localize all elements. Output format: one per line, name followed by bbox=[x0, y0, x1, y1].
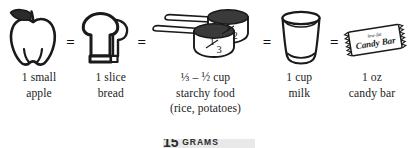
grams-banner-text: 15 grams bbox=[163, 139, 255, 148]
caption-candy-line-1: 1 oz bbox=[333, 70, 411, 86]
caption-bread: 1 slice bread bbox=[79, 70, 143, 101]
equals-sign-3: = bbox=[263, 35, 272, 68]
apple-icon bbox=[2, 2, 64, 68]
equivalence-item-apple bbox=[2, 2, 64, 68]
caption-milk: 1 cup milk bbox=[268, 70, 330, 101]
caption-milk-line-2: milk bbox=[268, 86, 330, 102]
caption-bread-line-1: 1 slice bbox=[79, 70, 143, 86]
caption-bread-line-2: bread bbox=[79, 86, 143, 102]
carbohydrate-equivalents-figure: = = bbox=[0, 0, 413, 148]
svg-text:2: 2 bbox=[232, 30, 237, 41]
grams-banner-unit: grams bbox=[182, 139, 219, 147]
equivalence-item-milk bbox=[274, 2, 328, 68]
equivalence-item-candy-bar: low-fat Candy Bar bbox=[341, 2, 411, 68]
equivalence-row: = = bbox=[0, 2, 413, 68]
caption-starchy-line-2: starchy food bbox=[146, 86, 266, 102]
caption-candy-bar: 1 oz candy bar bbox=[333, 70, 411, 101]
caption-apple: 1 small apple bbox=[2, 70, 76, 101]
equals-sign-2: = bbox=[138, 35, 147, 68]
milk-glass-icon bbox=[274, 2, 328, 68]
grams-banner: 15 grams bbox=[163, 139, 255, 148]
equals-sign-4: = bbox=[330, 35, 339, 68]
caption-row: 1 small apple 1 slice bread ⅓ – ½ cup st… bbox=[0, 70, 413, 117]
bread-slice-icon bbox=[77, 2, 135, 68]
equivalence-item-starchy-food: 1 2 1 3 bbox=[149, 2, 261, 68]
caption-candy-line-2: candy bar bbox=[333, 86, 411, 102]
caption-starchy-line-3: (rice, potatoes) bbox=[146, 101, 266, 117]
caption-starchy-food: ⅓ – ½ cup starchy food (rice, potatoes) bbox=[146, 70, 266, 117]
caption-apple-line-2: apple bbox=[2, 86, 76, 102]
caption-milk-line-1: 1 cup bbox=[268, 70, 330, 86]
svg-text:3: 3 bbox=[216, 44, 221, 55]
caption-starchy-line-1: ⅓ – ½ cup bbox=[146, 70, 266, 86]
caption-apple-line-1: 1 small bbox=[2, 70, 76, 86]
measuring-cups-icon: 1 2 1 3 bbox=[149, 2, 261, 68]
candy-bar-icon: low-fat Candy Bar bbox=[341, 2, 411, 68]
equals-sign-1: = bbox=[66, 35, 75, 68]
grams-banner-number: 15 bbox=[163, 139, 179, 148]
equivalence-item-bread bbox=[77, 2, 135, 68]
